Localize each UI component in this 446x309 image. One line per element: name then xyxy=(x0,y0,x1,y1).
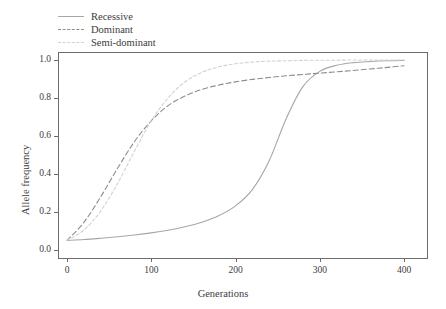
allele-frequency-chart: Recessive Dominant Semi-dominant 0.00.20… xyxy=(0,0,446,309)
x-tick-label: 200 xyxy=(216,265,256,275)
series-line-semi-dominant xyxy=(67,60,404,241)
plot-frame xyxy=(59,53,428,259)
plot-area xyxy=(0,0,446,309)
y-tick-label: 0.8 xyxy=(21,92,51,102)
x-axis-title: Generations xyxy=(0,288,446,299)
plot-border xyxy=(59,53,428,259)
x-tick-label: 100 xyxy=(131,265,171,275)
x-tick-label: 0 xyxy=(47,265,87,275)
series-curves xyxy=(67,60,404,241)
x-tick-label: 400 xyxy=(384,265,424,275)
x-tick-label: 300 xyxy=(300,265,340,275)
y-axis-title: Allele frequency xyxy=(20,145,31,215)
series-line-dominant xyxy=(67,66,404,241)
series-line-recessive xyxy=(67,60,404,240)
y-tick-label: 1.0 xyxy=(21,54,51,64)
y-tick-label: 0.0 xyxy=(21,244,51,254)
y-tick-label: 0.6 xyxy=(21,130,51,140)
axis-ticks xyxy=(54,61,405,263)
